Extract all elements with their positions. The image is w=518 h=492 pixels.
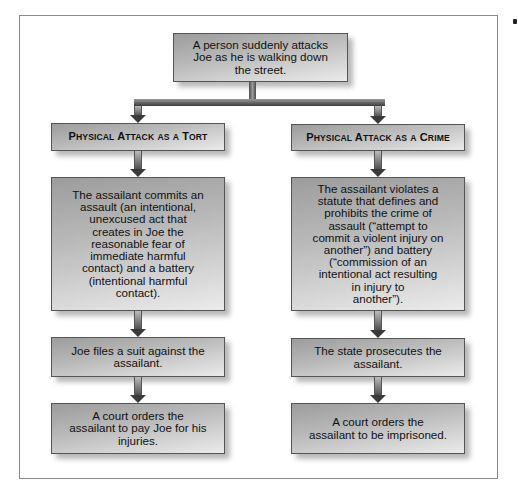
arrow-down-icon xyxy=(130,377,146,403)
crime-header-label: PHYSICAL ATTACK AS A CRIME xyxy=(306,131,450,144)
top-event-text: A person suddenly attacks Joe as he is w… xyxy=(193,39,328,76)
top-event-box: A person suddenly attacks Joe as he is w… xyxy=(173,33,348,82)
crime-step-1-box: The assailant violates a statute that de… xyxy=(291,177,465,311)
crime-step-2-text: The state prosecutes the assailant. xyxy=(314,345,442,369)
arrow-down-icon xyxy=(370,377,386,403)
diagram-canvas: A person suddenly attacks Joe as he is w… xyxy=(0,0,518,492)
crime-header-box: PHYSICAL ATTACK AS A CRIME xyxy=(291,124,465,151)
arrow-down-icon xyxy=(130,311,146,337)
tort-step-3-box: A court orders the assailant to pay Joe … xyxy=(51,403,225,454)
tort-header-label: PHYSICAL ATTACK AS A TORT xyxy=(69,130,208,143)
tort-step-2-box: Joe files a suit against the assailant. xyxy=(51,337,225,377)
crime-step-3-box: A court orders the assailant to be impri… xyxy=(291,403,465,454)
connector-bar xyxy=(134,99,385,106)
page-edge-mark xyxy=(513,19,517,24)
arrow-down-icon xyxy=(130,151,146,177)
crime-step-2-box: The state prosecutes the assailant. xyxy=(291,338,465,377)
tort-step-2-text: Joe files a suit against the assailant. xyxy=(71,345,204,369)
arrow-down-icon xyxy=(130,106,146,123)
crime-step-1-text: The assailant violates a statute that de… xyxy=(313,183,444,305)
arrow-down-icon xyxy=(370,106,386,124)
tort-step-3-text: A court orders the assailant to pay Joe … xyxy=(69,410,206,447)
tort-step-1-text: The assailant commits an assault (an int… xyxy=(72,189,203,299)
crime-step-3-text: A court orders the assailant to be impri… xyxy=(309,416,447,440)
tort-header-box: PHYSICAL ATTACK AS A TORT xyxy=(51,123,225,151)
tort-step-1-box: The assailant commits an assault (an int… xyxy=(51,177,225,311)
arrow-down-icon xyxy=(370,311,386,338)
arrow-down-icon xyxy=(370,151,386,177)
